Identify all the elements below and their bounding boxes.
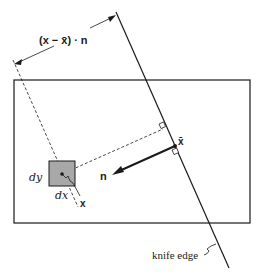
- dx-label: dx: [55, 189, 69, 202]
- x-bar-label: x̄: [178, 136, 184, 147]
- dimension-arrow-left: [17, 46, 54, 63]
- knife-edge-line: [116, 12, 229, 268]
- normal-vector-arrow: [117, 146, 175, 172]
- knife-edge-leader: [204, 244, 216, 255]
- n-label: n: [100, 170, 107, 182]
- normal-arrowhead: [112, 166, 124, 175]
- dy-label: dy: [29, 171, 43, 184]
- right-angle-marker-bottom: [172, 148, 179, 155]
- x-label: x: [80, 198, 86, 209]
- arrowhead-left: [14, 59, 22, 65]
- perpendicular-dashed-line: [62, 129, 163, 174]
- arrowhead-right: [108, 15, 116, 22]
- image-plane-rectangle: [14, 80, 250, 223]
- knife-edge-label: knife edge: [152, 249, 198, 261]
- knife-edge-diagram: (x − x̄) · n dy dx x x̄ n knife edge: [0, 0, 263, 276]
- projection-label: (x − x̄) · n: [39, 34, 88, 46]
